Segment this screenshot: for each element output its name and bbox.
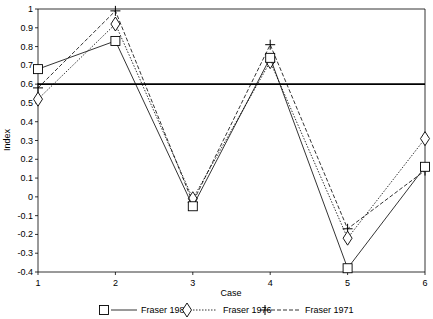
plot-area xyxy=(38,9,425,272)
legend-item: Fraser 1971 xyxy=(260,305,354,315)
y-tick-label: 0.4 xyxy=(20,117,33,127)
x-tick-label: 2 xyxy=(113,278,118,288)
y-tick-label: 0.2 xyxy=(20,154,33,164)
square-marker-icon xyxy=(111,36,120,45)
y-tick-label: 0.1 xyxy=(20,173,33,183)
plus-marker-icon xyxy=(265,40,275,50)
y-tick-label: 0 xyxy=(28,192,33,202)
y-axis: -0.4-0.3-0.2-0.100.10.20.30.40.50.60.70.… xyxy=(17,4,38,277)
series-fraser-1981 xyxy=(34,36,430,272)
series-layer xyxy=(33,6,430,273)
legend-item: Fraser 1976 xyxy=(183,303,272,317)
x-tick-label: 4 xyxy=(268,278,273,288)
x-tick-label: 1 xyxy=(35,278,40,288)
square-marker-icon xyxy=(100,306,109,315)
y-tick-label: 0.3 xyxy=(20,136,33,146)
diamond-marker-icon xyxy=(111,17,120,31)
series-line xyxy=(38,24,425,238)
y-tick-label: 0.5 xyxy=(20,98,33,108)
y-tick-label: 1 xyxy=(28,4,33,14)
legend: Fraser 1981Fraser 1976Fraser 1971 xyxy=(100,303,354,317)
y-tick-label: 0.9 xyxy=(20,23,33,33)
y-tick-label: -0.2 xyxy=(17,229,33,239)
y-tick-label: -0.1 xyxy=(17,211,33,221)
y-tick-label: -0.4 xyxy=(17,267,33,277)
x-tick-label: 5 xyxy=(345,278,350,288)
series-line xyxy=(38,11,425,229)
y-tick-label: 0.7 xyxy=(20,60,33,70)
legend-item: Fraser 1981 xyxy=(100,305,190,315)
square-marker-icon xyxy=(421,162,430,171)
diamond-marker-icon xyxy=(343,231,352,245)
diamond-marker-icon xyxy=(421,132,430,146)
square-marker-icon xyxy=(34,65,43,74)
square-marker-icon xyxy=(343,264,352,273)
x-axis-title: Case xyxy=(220,288,241,298)
square-marker-icon xyxy=(266,53,275,62)
diamond-marker-icon xyxy=(34,92,43,106)
x-tick-label: 3 xyxy=(190,278,195,288)
legend-label: Fraser 1971 xyxy=(305,305,354,315)
y-tick-label: -0.3 xyxy=(17,248,33,258)
y-tick-label: 0.6 xyxy=(20,79,33,89)
x-axis: 123456 xyxy=(35,272,427,288)
x-tick-label: 6 xyxy=(422,278,427,288)
y-tick-label: 0.8 xyxy=(20,42,33,52)
y-axis-title: Index xyxy=(2,128,12,151)
line-chart: -0.4-0.3-0.2-0.100.10.20.30.40.50.60.70.… xyxy=(0,0,433,319)
series-line xyxy=(38,41,425,268)
square-marker-icon xyxy=(188,202,197,211)
series-fraser-1971 xyxy=(33,6,430,234)
series-fraser-1976 xyxy=(34,17,430,245)
